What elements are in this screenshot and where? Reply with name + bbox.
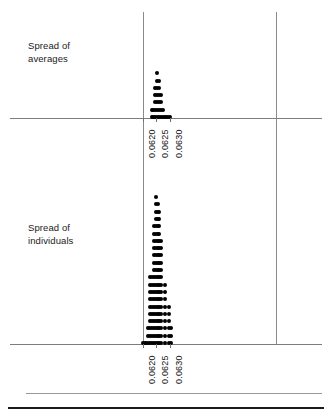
axis-tick-label: 0.0620 — [147, 129, 157, 158]
axis-tick — [143, 118, 144, 122]
dotplot-figure: Spread of averages Spread of individuals… — [0, 0, 332, 420]
axis-tick-label: 0.0630 — [174, 355, 184, 384]
axis-tick-label: 0.0620 — [147, 355, 157, 384]
axis-tick — [143, 344, 144, 348]
axis-tick-label: 0.0630 — [174, 129, 184, 158]
axis-tick-label: 0.0625 — [160, 355, 170, 384]
ticks-layer: 0.06200.06250.06300.06200.06250.0630 — [0, 0, 332, 420]
axis-tick — [170, 344, 171, 348]
axis-tick — [170, 118, 171, 122]
axis-tick-label: 0.0625 — [160, 129, 170, 158]
axis-tick — [156, 118, 157, 122]
axis-tick — [156, 344, 157, 348]
